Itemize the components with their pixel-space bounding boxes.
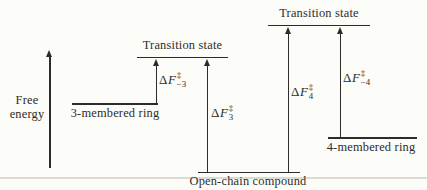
delta: Δ [211,105,219,121]
ts3-label: Transition state [134,39,231,52]
df-forward4-label: ΔF‡4 [291,83,313,100]
ring4-level-line [328,137,417,139]
subscript: 3 [229,113,233,122]
ts4-level-line [268,25,370,27]
delta: Δ [343,70,351,86]
ring4-label: 4-membered ring [321,141,421,154]
delta: Δ [159,72,167,88]
y-axis-label-line1: Free [4,93,50,107]
ts4-label: Transition state [266,7,372,20]
df-reverse3-label: ΔF‡−3 [159,71,186,88]
free-energy-diagram: Free energy 3-membered ring Transition s… [0,0,427,190]
f-symbol: F [352,70,360,86]
df-forward4-arrow [288,32,289,172]
df-reverse4-arrow [340,32,341,137]
y-axis-label-line2: energy [4,107,50,121]
ts3-level-line [137,57,228,59]
df-reverse4-label: ΔF‡−4 [343,69,370,86]
ring3-label: 3-membered ring [65,107,165,120]
delta: Δ [291,84,299,100]
f-symbol: F [300,84,308,100]
f-symbol: F [220,105,228,121]
subscript: 4 [309,92,313,101]
y-axis-label: Free energy [4,93,50,121]
ring3-level-line [72,103,158,105]
f-symbol: F [168,72,176,88]
df-reverse3-arrow [156,64,157,104]
subscript: −4 [361,78,370,87]
open-chain-label: Open-chain compound [185,175,311,188]
df-forward3-label: ΔF‡3 [211,104,233,121]
df-forward3-arrow [207,64,208,172]
subscript: −3 [177,80,186,89]
